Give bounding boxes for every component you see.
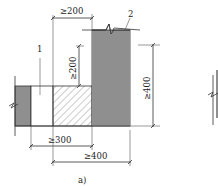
svg-text:1: 1 <box>37 44 42 54</box>
figure-caption: a) <box>78 175 86 185</box>
dimension-right-height: ≥400 <box>130 43 160 128</box>
callout-2: 2 <box>125 9 133 30</box>
left-wall-segment <box>9 76 31 136</box>
svg-text:≥400: ≥400 <box>84 151 107 161</box>
dimension-inner-height: ≥200 <box>68 44 84 88</box>
adjacent-figure-fragment <box>208 70 218 125</box>
opening-region <box>31 86 53 126</box>
svg-text:≥200: ≥200 <box>68 57 78 80</box>
svg-text:≥200: ≥200 <box>60 6 83 16</box>
hatched-infill-region <box>53 86 92 126</box>
dimension-bottom-inner: ≥300 <box>29 126 94 150</box>
structural-detail-diagram: 1 2 ≥200 ≥200 ≥400 ≥300 <box>0 0 218 186</box>
svg-text:≥300: ≥300 <box>48 135 71 145</box>
svg-text:≥400: ≥400 <box>142 77 152 100</box>
svg-text:2: 2 <box>128 9 133 19</box>
